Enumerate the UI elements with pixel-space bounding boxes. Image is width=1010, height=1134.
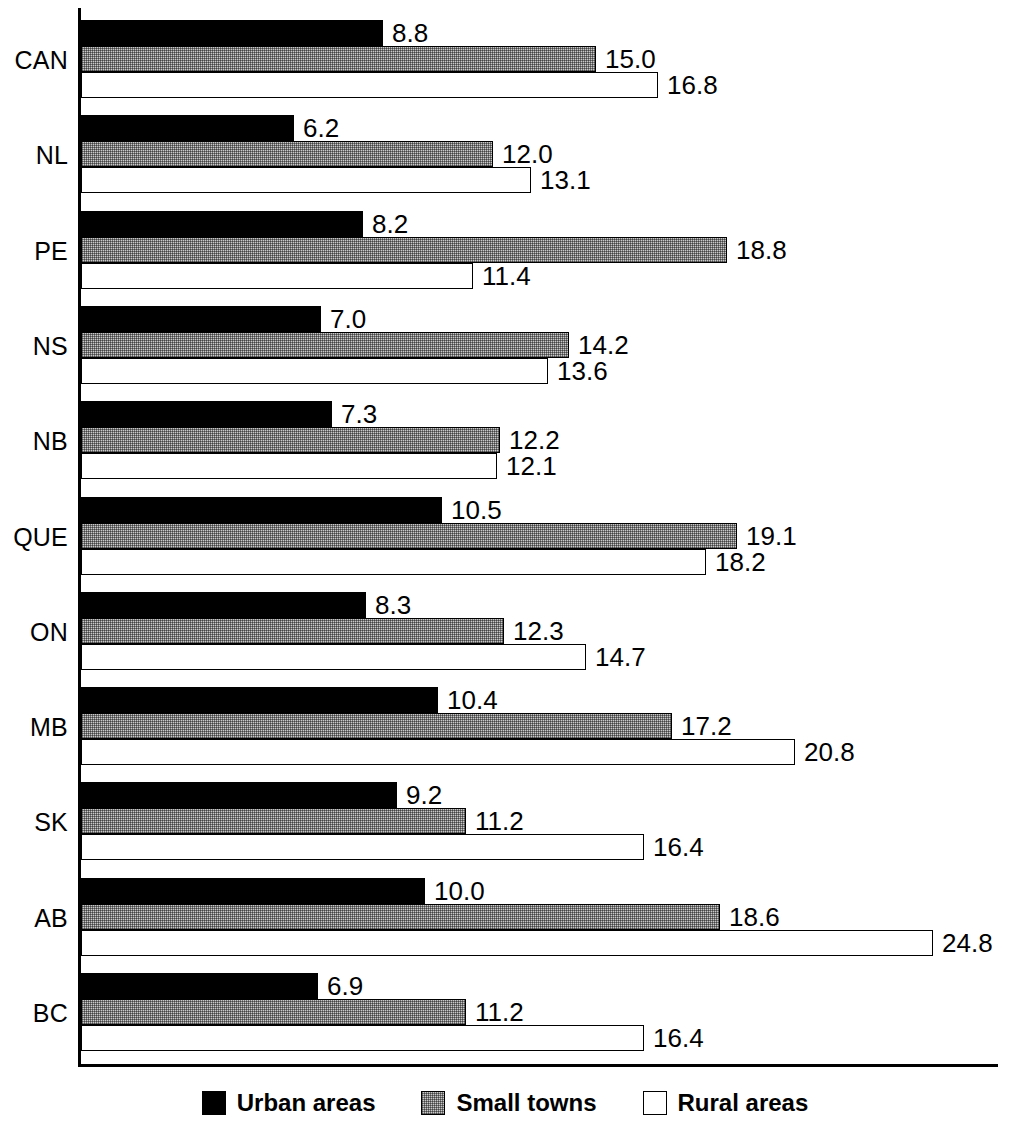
bar-urban-mb[interactable]	[81, 687, 438, 713]
bar-row: 18.2	[81, 549, 1001, 575]
bar-rural-ab[interactable]	[81, 930, 933, 956]
bar-row: 11.4	[81, 263, 1001, 289]
bar-row: 17.2	[81, 713, 1001, 739]
bar-row: 7.3	[81, 401, 1001, 427]
bar-row: 7.0	[81, 306, 1001, 332]
bar-urban-ab[interactable]	[81, 878, 425, 904]
bar-small-towns-pe[interactable]	[81, 237, 727, 263]
bar-value-label: 8.3	[375, 592, 411, 618]
bar-row: 8.8	[81, 20, 1001, 46]
bar-urban-ns[interactable]	[81, 306, 321, 332]
bar-small-towns-bc[interactable]	[81, 999, 466, 1025]
legend-item-urban[interactable]: Urban areas	[202, 1090, 376, 1116]
bar-rural-bc[interactable]	[81, 1025, 644, 1051]
bar-value-label: 12.2	[509, 427, 560, 453]
bar-group: NS7.014.213.6	[0, 306, 1010, 384]
bar-row: 14.2	[81, 332, 1001, 358]
white-outlined-square-icon	[643, 1091, 667, 1115]
bar-row: 20.8	[81, 739, 1001, 765]
bar-value-label: 6.9	[327, 973, 363, 999]
bar-urban-on[interactable]	[81, 592, 366, 618]
category-label-nl: NL	[0, 142, 68, 168]
bar-row: 12.0	[81, 141, 1001, 167]
bar-row: 11.2	[81, 999, 1001, 1025]
bar-value-label: 20.8	[804, 739, 855, 765]
category-label-nb: NB	[0, 428, 68, 454]
bar-rural-mb[interactable]	[81, 739, 795, 765]
bar-rural-nb[interactable]	[81, 453, 497, 479]
bar-value-label: 6.2	[303, 115, 339, 141]
bar-value-label: 14.2	[578, 332, 629, 358]
bar-urban-sk[interactable]	[81, 782, 397, 808]
bar-value-label: 11.2	[475, 808, 524, 834]
bar-small-towns-sk[interactable]	[81, 808, 466, 834]
bar-rural-on[interactable]	[81, 644, 586, 670]
bar-small-towns-nb[interactable]	[81, 427, 500, 453]
bar-rural-can[interactable]	[81, 72, 658, 98]
legend-label: Rural areas	[678, 1090, 809, 1116]
bar-urban-pe[interactable]	[81, 211, 363, 237]
bar-rural-nl[interactable]	[81, 167, 531, 193]
bar-value-label: 12.1	[506, 453, 557, 479]
bar-chart: CAN8.815.016.8NL6.212.013.1PE8.218.811.4…	[0, 0, 1010, 1075]
bar-value-label: 15.0	[605, 46, 656, 72]
bar-small-towns-nl[interactable]	[81, 141, 493, 167]
chart-legend: Urban areasSmall townsRural areas	[0, 1083, 1010, 1123]
bar-row: 9.2	[81, 782, 1001, 808]
bar-small-towns-ab[interactable]	[81, 904, 720, 930]
bar-group: PE8.218.811.4	[0, 211, 1010, 289]
bar-row: 18.8	[81, 237, 1001, 263]
bar-value-label: 14.7	[595, 644, 646, 670]
value-baseline	[78, 1064, 998, 1067]
bar-row: 19.1	[81, 523, 1001, 549]
category-label-on: ON	[0, 619, 68, 645]
legend-label: Urban areas	[237, 1090, 376, 1116]
bar-value-label: 16.8	[667, 72, 718, 98]
bar-urban-nb[interactable]	[81, 401, 332, 427]
gray-hatched-square-icon	[421, 1091, 445, 1115]
bar-value-label: 7.3	[341, 401, 377, 427]
legend-item-rural[interactable]: Rural areas	[643, 1090, 809, 1116]
bar-value-label: 7.0	[330, 306, 366, 332]
bar-row: 11.2	[81, 808, 1001, 834]
bar-row: 10.5	[81, 497, 1001, 523]
bar-value-label: 16.4	[653, 1025, 704, 1051]
bar-value-label: 9.2	[406, 782, 442, 808]
category-label-sk: SK	[0, 809, 68, 835]
bar-small-towns-que[interactable]	[81, 523, 737, 549]
bar-urban-que[interactable]	[81, 497, 442, 523]
legend-item-small[interactable]: Small towns	[421, 1090, 596, 1116]
category-label-can: CAN	[0, 47, 68, 73]
bar-urban-nl[interactable]	[81, 115, 294, 141]
bar-urban-can[interactable]	[81, 20, 383, 46]
bar-value-label: 13.6	[557, 358, 608, 384]
bar-group: NL6.212.013.1	[0, 115, 1010, 193]
bar-rural-sk[interactable]	[81, 834, 644, 860]
bar-value-label: 12.0	[502, 141, 553, 167]
category-label-que: QUE	[0, 524, 68, 550]
bar-rural-que[interactable]	[81, 549, 706, 575]
bar-small-towns-on[interactable]	[81, 618, 504, 644]
bar-small-towns-ns[interactable]	[81, 332, 569, 358]
bar-value-label: 18.2	[715, 549, 766, 575]
bar-group: AB10.018.624.8	[0, 878, 1010, 956]
bar-value-label: 18.8	[736, 237, 787, 263]
bar-value-label: 8.8	[392, 20, 428, 46]
chart-page: CAN8.815.016.8NL6.212.013.1PE8.218.811.4…	[0, 0, 1010, 1134]
bar-rural-ns[interactable]	[81, 358, 548, 384]
bar-row: 15.0	[81, 46, 1001, 72]
category-label-pe: PE	[0, 238, 68, 264]
bar-urban-bc[interactable]	[81, 973, 318, 999]
bar-value-label: 8.2	[372, 211, 408, 237]
bar-small-towns-can[interactable]	[81, 46, 596, 72]
bar-row: 18.6	[81, 904, 1001, 930]
bar-row: 24.8	[81, 930, 1001, 956]
bar-group: NB7.312.212.1	[0, 401, 1010, 479]
bar-rural-pe[interactable]	[81, 263, 473, 289]
bar-row: 8.2	[81, 211, 1001, 237]
bar-group: MB10.417.220.8	[0, 687, 1010, 765]
bar-row: 10.4	[81, 687, 1001, 713]
bar-value-label: 19.1	[746, 523, 797, 549]
bar-small-towns-mb[interactable]	[81, 713, 672, 739]
category-label-ab: AB	[0, 905, 68, 931]
